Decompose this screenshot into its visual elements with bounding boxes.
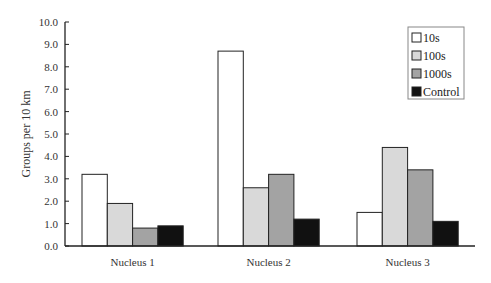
bar-group-1 <box>82 174 183 246</box>
y-tick-label: 5.0 <box>44 128 58 140</box>
x-category-label: Nucleus 2 <box>246 256 290 268</box>
y-tick-label: 0.0 <box>44 240 58 252</box>
legend-label: 1000s <box>423 67 452 81</box>
legend-swatch-1000s <box>412 69 421 78</box>
legend-swatch-10s <box>412 33 421 42</box>
legend-label: 100s <box>423 49 446 63</box>
legend: 10s100s1000sControl <box>408 27 464 99</box>
bar-1000s <box>408 170 433 246</box>
legend-label: 10s <box>423 31 440 45</box>
legend-swatch-control <box>412 87 421 96</box>
x-category-label: Nucleus 3 <box>385 256 430 268</box>
bars <box>82 51 458 246</box>
y-tick-label: 9.0 <box>44 38 58 50</box>
bar-100s <box>107 203 132 246</box>
y-tick-label: 2.0 <box>44 195 58 207</box>
x-category-label: Nucleus 1 <box>110 256 154 268</box>
y-axis: 0.01.02.03.04.05.06.07.08.09.010.0 <box>39 16 69 252</box>
bar-10s <box>82 174 107 246</box>
bar-group-3 <box>357 147 458 246</box>
legend-swatch-100s <box>412 51 421 60</box>
bar-control <box>158 226 183 246</box>
y-axis-label: Groups per 10 km <box>19 90 33 178</box>
bar-100s <box>243 188 268 246</box>
bar-group-2 <box>218 51 319 246</box>
x-axis: Nucleus 1Nucleus 2Nucleus 3 <box>65 246 475 268</box>
bar-1000s <box>269 174 294 246</box>
y-tick-label: 7.0 <box>44 83 58 95</box>
y-tick-label: 1.0 <box>44 218 58 230</box>
y-tick-label: 10.0 <box>39 16 59 28</box>
bar-control <box>294 219 319 246</box>
bar-10s <box>357 212 382 246</box>
legend-label: Control <box>423 85 460 99</box>
bar-100s <box>382 147 407 246</box>
bar-control <box>433 221 458 246</box>
y-tick-label: 8.0 <box>44 61 58 73</box>
y-tick-label: 4.0 <box>44 150 58 162</box>
bar-10s <box>218 51 243 246</box>
y-tick-label: 6.0 <box>44 106 58 118</box>
bar-1000s <box>133 228 158 246</box>
y-tick-label: 3.0 <box>44 173 58 185</box>
bar-chart: 0.01.02.03.04.05.06.07.08.09.010.0 Nucle… <box>0 0 491 283</box>
